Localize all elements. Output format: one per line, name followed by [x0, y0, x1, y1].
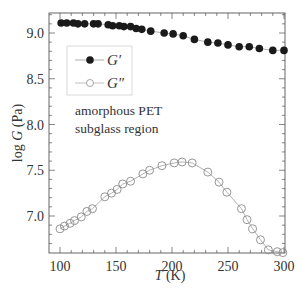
- y-tick-label: 8.5: [27, 72, 45, 87]
- x-tick-label: 100: [50, 259, 71, 274]
- filled-circle-marker-icon: [138, 26, 146, 34]
- legend: G′ G″: [67, 46, 132, 95]
- annotation-line-1: amorphous PET: [75, 103, 163, 118]
- filled-circle-marker-icon: [280, 47, 288, 55]
- y-tick-label: 8.0: [27, 118, 45, 133]
- y-axis-label: log G (Pa): [10, 103, 26, 162]
- chart: 1001502002503007.07.58.08.59.0 G′ G″ amo…: [0, 0, 301, 300]
- filled-circle-marker-icon: [235, 43, 243, 51]
- filled-circle-marker-icon: [269, 47, 277, 55]
- filled-circle-marker-icon: [86, 56, 94, 64]
- filled-circle-marker-icon: [109, 22, 117, 30]
- filled-circle-marker-icon: [74, 20, 82, 28]
- x-tick-label: 250: [218, 259, 239, 274]
- annotation-line-2: subglass region: [75, 121, 159, 136]
- y-tick-label: 7.0: [27, 209, 45, 224]
- x-axis-label: T (K): [155, 268, 186, 284]
- filled-circle-marker-icon: [191, 36, 199, 44]
- filled-circle-marker-icon: [245, 43, 253, 51]
- chart-background: [0, 0, 301, 300]
- filled-circle-marker-icon: [214, 39, 222, 47]
- y-tick-label: 7.5: [27, 163, 45, 178]
- open-circle-marker-icon: [87, 80, 94, 87]
- legend-label-g-double-prime: G″: [107, 75, 125, 91]
- x-tick-label: 300: [274, 259, 295, 274]
- filled-circle-marker-icon: [120, 23, 128, 31]
- filled-circle-marker-icon: [147, 27, 155, 35]
- filled-circle-marker-icon: [256, 45, 264, 53]
- x-tick-label: 150: [106, 259, 127, 274]
- filled-circle-marker-icon: [81, 20, 89, 28]
- filled-circle-marker-icon: [224, 41, 232, 49]
- filled-circle-marker-icon: [94, 20, 102, 28]
- filled-circle-marker-icon: [179, 32, 187, 40]
- legend-label-g-prime: G′: [107, 52, 122, 68]
- filled-circle-marker-icon: [169, 30, 177, 38]
- filled-circle-marker-icon: [63, 19, 71, 27]
- filled-circle-marker-icon: [204, 38, 212, 46]
- y-tick-label: 9.0: [27, 26, 45, 41]
- filled-circle-marker-icon: [160, 29, 168, 37]
